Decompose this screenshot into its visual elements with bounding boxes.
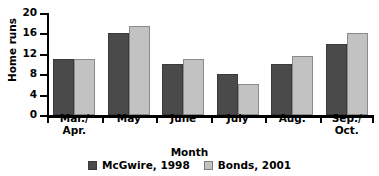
x-axis-category-label: May xyxy=(102,112,157,124)
bar xyxy=(326,44,347,115)
chart-legend: McGwire, 1998Bonds, 2001 xyxy=(0,159,379,171)
y-axis-tick-label: 16 xyxy=(22,26,37,38)
bar xyxy=(108,33,129,115)
bar xyxy=(238,84,259,115)
bar xyxy=(74,59,95,115)
bar xyxy=(183,59,204,115)
bar xyxy=(347,33,368,115)
bars-layer xyxy=(47,13,374,115)
x-axis-category-label: July xyxy=(211,112,266,124)
y-axis-tick-label: 4 xyxy=(30,88,37,100)
plot-area: 048121620 xyxy=(47,13,374,115)
bar xyxy=(162,64,183,115)
y-axis-tick-label: 20 xyxy=(22,6,37,18)
bar xyxy=(271,64,292,115)
x-axis-category-label: Sep./ Oct. xyxy=(320,112,375,136)
legend-entry: McGwire, 1998 xyxy=(88,159,190,171)
legend-label: Bonds, 2001 xyxy=(218,159,291,171)
legend-swatch-icon xyxy=(88,161,97,170)
bar xyxy=(129,26,150,115)
y-axis-tick-label: 12 xyxy=(22,47,37,59)
y-axis-tick-label: 0 xyxy=(30,108,37,120)
bar xyxy=(292,56,313,115)
home-runs-bar-chart: Home runs 048121620 Mar./ Apr.MayJuneJul… xyxy=(0,0,379,176)
x-axis-category-label: June xyxy=(156,112,211,124)
x-axis-category-label: Mar./ Apr. xyxy=(47,112,102,136)
bar xyxy=(217,74,238,115)
legend-entry: Bonds, 2001 xyxy=(204,159,291,171)
x-axis-category-label: Aug. xyxy=(265,112,320,124)
x-axis-title: Month xyxy=(0,146,379,158)
y-axis-tick-label: 8 xyxy=(30,67,37,79)
bar xyxy=(53,59,74,115)
legend-label: McGwire, 1998 xyxy=(102,159,190,171)
y-axis-title: Home runs xyxy=(6,4,18,96)
legend-swatch-icon xyxy=(204,161,213,170)
